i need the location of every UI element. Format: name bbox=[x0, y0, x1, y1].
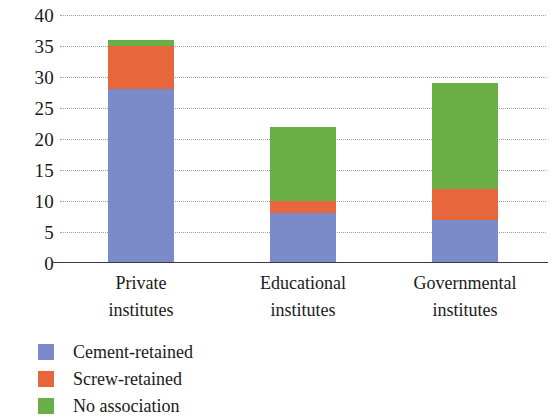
stacked-bar-chart: 0510152025303540 PrivateinstitutesEducat… bbox=[0, 0, 559, 420]
x-axis-label-line: Educational bbox=[260, 273, 346, 293]
y-axis-tick-label: 10 bbox=[8, 192, 54, 211]
legend-item[interactable]: Cement-retained bbox=[38, 338, 338, 365]
x-axis-category-labels: PrivateinstitutesEducationalinstitutesGo… bbox=[60, 270, 546, 330]
x-axis-category-label: Governmentalinstitutes bbox=[384, 270, 546, 324]
x-axis-label-line: Governmental bbox=[414, 273, 517, 293]
x-axis-label-line: Private bbox=[116, 273, 167, 293]
x-axis-label-line: institutes bbox=[384, 297, 546, 324]
legend-item[interactable]: Screw-retained bbox=[38, 365, 338, 392]
y-axis-tick-label: 30 bbox=[8, 68, 54, 87]
legend-color-swatch bbox=[38, 344, 54, 360]
bar-group[interactable] bbox=[270, 15, 336, 263]
legend-color-swatch bbox=[38, 371, 54, 387]
bar-stack bbox=[432, 83, 498, 263]
bar-segment[interactable] bbox=[432, 83, 498, 188]
bar-group[interactable] bbox=[108, 15, 174, 263]
bars-layer bbox=[60, 15, 546, 263]
y-axis-tick-label: 25 bbox=[8, 99, 54, 118]
y-axis-tick-label: 15 bbox=[8, 161, 54, 180]
y-axis-tick-label: 0 bbox=[8, 254, 54, 273]
x-axis-category-label: Educationalinstitutes bbox=[222, 270, 384, 324]
legend: Cement-retainedScrew-retainedNo associat… bbox=[38, 338, 338, 419]
legend-color-swatch bbox=[38, 398, 54, 414]
y-axis-tick-label: 20 bbox=[8, 130, 54, 149]
bar-segment[interactable] bbox=[270, 127, 336, 201]
bar-segment[interactable] bbox=[108, 46, 174, 89]
bar-segment[interactable] bbox=[270, 213, 336, 263]
bar-stack bbox=[270, 127, 336, 263]
y-axis-tick-labels: 0510152025303540 bbox=[0, 0, 54, 263]
y-axis-tick-label: 35 bbox=[8, 37, 54, 56]
bar-segment[interactable] bbox=[108, 89, 174, 263]
x-axis-label-line: institutes bbox=[60, 297, 222, 324]
x-axis-label-line: institutes bbox=[222, 297, 384, 324]
x-axis-line bbox=[52, 262, 548, 263]
legend-label: Cement-retained bbox=[73, 342, 193, 362]
bar-segment[interactable] bbox=[432, 220, 498, 263]
y-axis-tick-label: 5 bbox=[8, 223, 54, 242]
legend-label: Screw-retained bbox=[73, 369, 182, 389]
bar-group[interactable] bbox=[432, 15, 498, 263]
legend-item[interactable]: No association bbox=[38, 392, 338, 419]
legend-label: No association bbox=[73, 396, 179, 416]
bar-stack bbox=[108, 40, 174, 263]
bar-segment[interactable] bbox=[270, 201, 336, 213]
bar-segment[interactable] bbox=[432, 189, 498, 220]
y-axis-tick-label: 40 bbox=[8, 6, 54, 25]
x-axis-category-label: Privateinstitutes bbox=[60, 270, 222, 324]
